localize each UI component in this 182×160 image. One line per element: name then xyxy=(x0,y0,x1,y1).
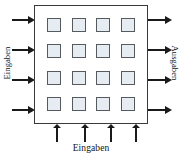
cell-wrapper xyxy=(67,12,92,38)
grid-cell xyxy=(96,71,110,85)
input-arrow-bottom-4 xyxy=(131,124,141,143)
grid-cell xyxy=(96,44,110,58)
grid-cell xyxy=(96,18,110,32)
cell-wrapper xyxy=(91,12,116,38)
grid-cell xyxy=(72,97,86,111)
input-arrow-left-2 xyxy=(12,45,36,55)
input-arrow-bottom-1 xyxy=(52,124,62,143)
grid-cell xyxy=(47,18,61,32)
grid-cell xyxy=(72,71,86,85)
input-arrow-left-1 xyxy=(12,15,36,25)
grid-cell xyxy=(47,44,61,58)
process-block xyxy=(34,5,148,124)
grid-cell xyxy=(121,44,135,58)
grid-cell xyxy=(121,18,135,32)
cell-wrapper xyxy=(116,12,141,38)
cell-wrapper xyxy=(42,65,67,91)
cell-grid xyxy=(35,6,147,123)
input-arrow-bottom-2 xyxy=(80,124,90,143)
cell-wrapper xyxy=(91,65,116,91)
cell-wrapper xyxy=(91,38,116,64)
cell-wrapper xyxy=(67,91,92,117)
cell-wrapper xyxy=(67,38,92,64)
cell-wrapper xyxy=(42,91,67,117)
grid-cell xyxy=(121,71,135,85)
cell-wrapper xyxy=(116,38,141,64)
input-arrow-left-4 xyxy=(12,105,36,115)
cell-wrapper xyxy=(42,12,67,38)
diagram-canvas: Eingaben Ausgaben Eingaben xyxy=(0,0,182,160)
grid-cell xyxy=(121,97,135,111)
input-arrow-left-3 xyxy=(12,75,36,85)
output-arrow-right-1 xyxy=(147,15,173,25)
cell-wrapper xyxy=(116,65,141,91)
label-bottom-inputs: Eingaben xyxy=(34,143,148,153)
cell-wrapper xyxy=(67,65,92,91)
grid-cell xyxy=(47,71,61,85)
grid-cell xyxy=(72,18,86,32)
input-arrow-bottom-3 xyxy=(106,124,116,143)
cell-wrapper xyxy=(116,91,141,117)
grid-cell xyxy=(72,44,86,58)
label-left-inputs: Eingaben xyxy=(2,37,12,89)
cell-wrapper xyxy=(91,91,116,117)
grid-cell xyxy=(96,97,110,111)
cell-wrapper xyxy=(42,38,67,64)
output-arrow-right-4 xyxy=(147,105,173,115)
label-right-outputs: Ausgaben xyxy=(170,37,180,89)
grid-cell xyxy=(47,97,61,111)
